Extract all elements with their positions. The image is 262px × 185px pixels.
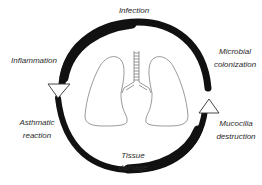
cycle-arc-upper	[62, 22, 208, 88]
arrowhead-down-icon	[48, 84, 70, 98]
label-mucocilia-destruction: Mucocilia destruction	[210, 117, 262, 143]
label-asthmatic-reaction: Asthmatic reaction	[12, 116, 62, 142]
label-microbial-colonization: Microbial colonization	[208, 45, 262, 71]
label-tissue-line1: Tissue	[108, 150, 158, 162]
label-microbial-line2: colonization	[208, 58, 262, 71]
label-tissue-damage: Tissue damage	[108, 150, 158, 174]
label-infection: Infection	[106, 4, 162, 17]
label-asthmatic-line2: reaction	[12, 129, 62, 142]
label-inflammation: Inflammation	[6, 54, 62, 67]
label-asthmatic-line1: Asthmatic	[12, 116, 62, 129]
vicious-cycle-diagram: Infection Microbial colonization Mucocil…	[0, 0, 262, 185]
label-mucocilia-line1: Mucocilia	[210, 117, 262, 130]
label-tissue-line2: damage	[108, 162, 158, 174]
label-microbial-line1: Microbial	[208, 45, 262, 58]
arrowhead-up-icon	[199, 99, 219, 113]
label-mucocilia-line2: destruction	[210, 130, 262, 143]
lungs-icon	[85, 51, 188, 126]
